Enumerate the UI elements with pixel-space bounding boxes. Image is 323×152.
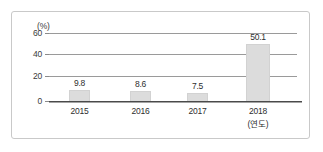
bar-2017[interactable] xyxy=(187,93,208,101)
axis-baseline xyxy=(49,101,302,102)
tick-stub-40 xyxy=(45,54,49,55)
y-tick-label-20: 20 xyxy=(16,71,42,81)
y-tick-label-40: 40 xyxy=(16,49,42,59)
x-tick-label-2016: 2016 xyxy=(120,106,161,116)
plot-area: (%) 60 40 20 0 9.8 8.6 7.5 50.1 2015 2 xyxy=(12,12,311,140)
bar-2015[interactable] xyxy=(69,90,90,101)
x-tick-label-2015: 2015 xyxy=(59,106,100,116)
tick-stub-0 xyxy=(45,101,49,102)
y-tick-label-0: 0 xyxy=(16,96,42,106)
tick-stub-20 xyxy=(45,76,49,77)
tick-stub-60 xyxy=(45,33,49,34)
bar-value-2018: 50.1 xyxy=(237,32,279,42)
y-tick-label-60: 60 xyxy=(16,28,42,38)
bar-2018[interactable] xyxy=(246,44,270,101)
x-tick-label-2017: 2017 xyxy=(177,106,218,116)
bar-value-2016: 8.6 xyxy=(120,79,161,89)
x-tick-label-2018: 2018 xyxy=(237,106,279,116)
chart-frame: (%) 60 40 20 0 9.8 8.6 7.5 50.1 2015 2 xyxy=(11,11,310,139)
bar-value-2015: 9.8 xyxy=(59,78,100,88)
x-axis-caption: (연도) xyxy=(237,117,279,129)
bar-value-2017: 7.5 xyxy=(177,81,218,91)
bar-2016[interactable] xyxy=(130,91,151,101)
